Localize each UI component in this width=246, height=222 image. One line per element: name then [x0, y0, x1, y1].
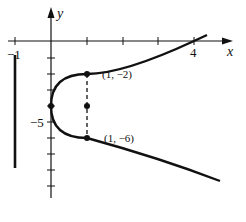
point-1-neg2 — [84, 71, 90, 77]
y-tick-label-neg5: −5 — [30, 115, 44, 130]
vertex-point — [48, 103, 54, 109]
point-1-neg6 — [84, 135, 90, 141]
focus-point — [84, 103, 90, 109]
x-tick-label-4: 4 — [190, 45, 197, 60]
y-axis-label: y — [55, 6, 64, 21]
y-axis-arrow-icon — [48, 7, 55, 18]
point-label-1-neg2: (1, −2) — [102, 68, 132, 81]
point-label-1-neg6: (1, −6) — [104, 132, 134, 145]
x-axis-label: x — [226, 44, 234, 59]
parabola-lower-branch — [51, 106, 220, 181]
parabola-diagram: y x −1 4 −5 (1, −2) (1, −6) — [0, 0, 246, 222]
